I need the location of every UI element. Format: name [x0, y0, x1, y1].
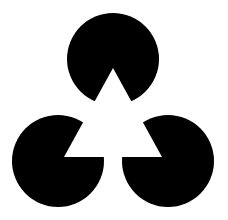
kanizsa-triangle-figure: [0, 0, 228, 220]
